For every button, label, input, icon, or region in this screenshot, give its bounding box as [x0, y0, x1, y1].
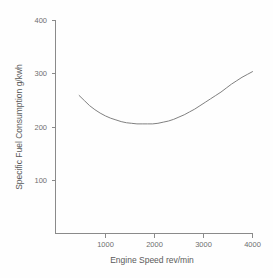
y-axis-title: Specific Fuel Consumption g/kwh	[14, 64, 24, 190]
x-tick-label-1000: 1000	[97, 240, 114, 249]
x-tick-label-4000: 4000	[244, 240, 261, 249]
x-axis-title: Engine Speed rev/min	[110, 255, 194, 265]
chart-background	[0, 0, 273, 278]
y-tick-label-100: 100	[34, 176, 47, 185]
y-tick-label-200: 200	[34, 123, 47, 132]
fuel-consumption-line-chart: 400 300 200 100 1000 2000 3000 4000 Engi…	[0, 0, 273, 278]
chart-figure: 400 300 200 100 1000 2000 3000 4000 Engi…	[0, 0, 273, 278]
y-tick-label-300: 300	[34, 69, 47, 78]
y-tick-label-400: 400	[34, 16, 47, 25]
x-tick-label-2000: 2000	[146, 240, 163, 249]
x-tick-label-3000: 3000	[195, 240, 212, 249]
